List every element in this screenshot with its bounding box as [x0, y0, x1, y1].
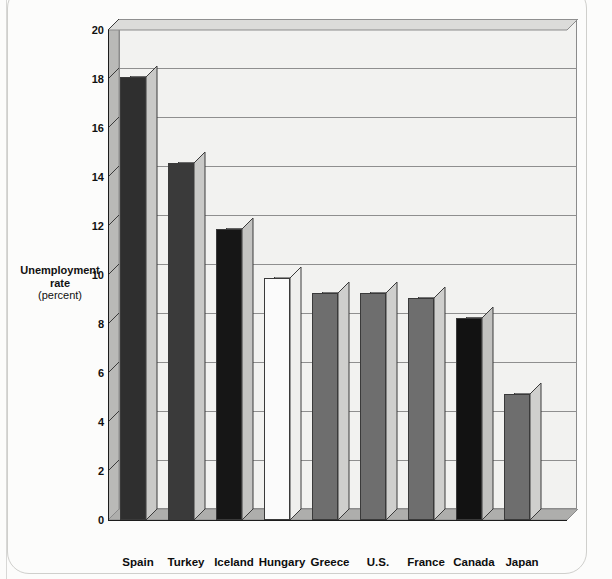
tick-connector-8: [108, 313, 120, 325]
y-tick-label-20: 20: [74, 25, 104, 36]
bar-us[interactable]: 9.3% U.S.: [360, 30, 397, 520]
bar-front-iceland: [216, 229, 242, 520]
bar-front-turkey: [168, 163, 194, 520]
bar-japan[interactable]: 5.2% Japan: [504, 30, 541, 520]
tick-connector-6: [108, 362, 120, 374]
bar-front-us: [360, 293, 386, 520]
y-tick-label-12: 12: [74, 221, 104, 232]
unemployment-rate-bar-chart: 20 18 16 14 12 10 8 6 4 2 0 Unemployment…: [0, 0, 612, 579]
gridline-20: [119, 19, 577, 20]
bar-side-iceland: [242, 218, 253, 520]
bar-side-turkey: [194, 152, 205, 520]
bar-canada[interactable]: 8.3% Canada: [456, 30, 493, 520]
tick-connector-12: [108, 215, 120, 227]
bar-front-france: [408, 298, 434, 520]
tick-connector-14: [108, 166, 120, 178]
tick-connector-4: [108, 411, 120, 423]
bar-france[interactable]: 9.1% France: [408, 30, 445, 520]
tick-connector-2: [108, 460, 120, 472]
y-tick-label-6: 6: [74, 368, 104, 379]
y-tick-label-2: 2: [74, 466, 104, 477]
bar-front-japan: [504, 394, 530, 520]
bar-greece[interactable]: 9.3% Greece: [312, 30, 349, 520]
tick-connector-16: [108, 117, 120, 129]
bar-spain[interactable]: 18.1% Spain: [120, 30, 157, 520]
bar-side-us: [386, 282, 397, 520]
y-axis-title-main: Unemployment rate: [16, 264, 104, 289]
x-axis-line: [108, 520, 567, 521]
bar-front-spain: [120, 77, 146, 520]
bar-front-canada: [456, 318, 482, 520]
y-tick-label-18: 18: [74, 74, 104, 85]
y-tick-label-16: 16: [74, 123, 104, 134]
y-tick-label-0: 0: [74, 515, 104, 526]
bar-side-france: [434, 287, 445, 520]
bar-hungary[interactable]: 9.9% Hungary: [264, 30, 301, 520]
y-tick-label-8: 8: [74, 319, 104, 330]
bar-side-japan: [530, 383, 541, 520]
y-tick-label-14: 14: [74, 172, 104, 183]
bar-label-japan: Japan: [487, 557, 557, 569]
tick-connector-10: [108, 264, 120, 276]
bar-front-hungary: [264, 278, 290, 520]
y-tick-label-4: 4: [74, 417, 104, 428]
bar-side-canada: [482, 307, 493, 520]
bar-turkey[interactable]: 14.6% Turkey: [168, 30, 205, 520]
y-axis-title: Unemployment rate (percent): [16, 264, 104, 302]
bar-iceland[interactable]: 11.9% Iceland: [216, 30, 253, 520]
y-axis-title-unit: (percent): [16, 289, 104, 302]
tick-connector-18: [108, 68, 120, 80]
tick-connector-20: [108, 19, 120, 31]
bar-side-spain: [146, 66, 157, 520]
bar-side-hungary: [290, 267, 301, 520]
bar-front-greece: [312, 293, 338, 520]
